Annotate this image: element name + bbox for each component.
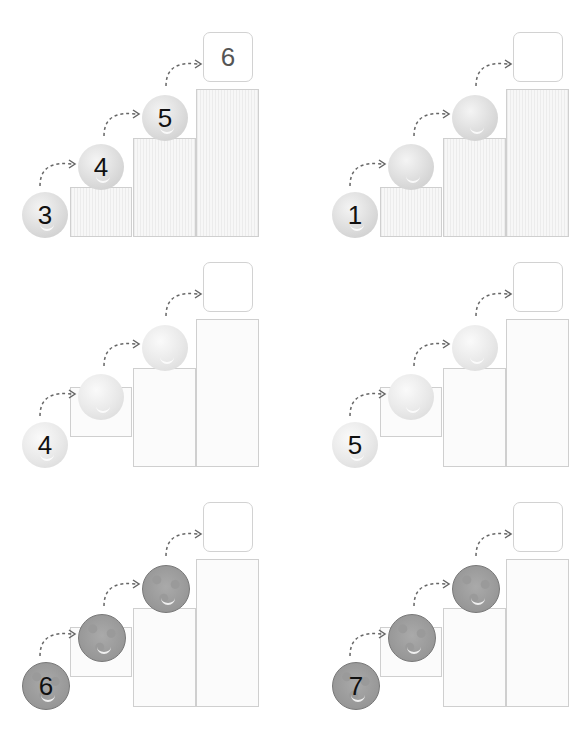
- blank-ball: [388, 614, 436, 662]
- step-1: [380, 187, 442, 237]
- blank-ball: [388, 374, 434, 420]
- shine-highlight: [471, 598, 485, 605]
- answer-box[interactable]: [513, 502, 563, 552]
- blank-ball: [78, 374, 124, 420]
- blank-ball: [452, 325, 498, 371]
- answer-box[interactable]: 6: [203, 32, 253, 82]
- step-3: [196, 319, 259, 467]
- blank-ball: [142, 325, 188, 371]
- shine-highlight: [406, 406, 420, 413]
- blank-ball: [452, 95, 498, 141]
- blank-ball: [142, 565, 190, 613]
- dashed-arrow-icon: [100, 338, 142, 368]
- dashed-arrow-icon: [100, 578, 142, 608]
- step-2: [133, 608, 196, 707]
- dashed-arrow-icon: [472, 288, 514, 318]
- dashed-arrow-icon: [410, 108, 452, 138]
- shine-highlight: [161, 598, 175, 605]
- dashed-arrow-icon: [162, 58, 204, 88]
- dashed-arrow-icon: [36, 388, 78, 418]
- blank-ball: [452, 565, 500, 613]
- dashed-arrow-icon: [162, 528, 204, 558]
- step-2: [133, 368, 196, 467]
- counting-panel-3: 4: [0, 250, 293, 495]
- shine-highlight: [470, 127, 484, 134]
- start-number-ball: 7: [332, 662, 380, 710]
- dashed-arrow-icon: [472, 528, 514, 558]
- start-number-ball: 3: [22, 192, 68, 238]
- shine-highlight: [97, 647, 111, 654]
- counting-panel-2: 1: [294, 0, 586, 245]
- dashed-arrow-icon: [346, 388, 388, 418]
- answer-box[interactable]: [513, 32, 563, 82]
- dashed-arrow-icon: [36, 158, 78, 188]
- dashed-arrow-icon: [346, 158, 388, 188]
- blank-ball: [388, 144, 434, 190]
- step-3: [506, 89, 569, 237]
- dashed-arrow-icon: [472, 58, 514, 88]
- start-number-ball: 4: [22, 422, 68, 468]
- dashed-arrow-icon: [162, 288, 204, 318]
- blank-ball: [78, 614, 126, 662]
- step-2: [443, 608, 506, 707]
- step-3: [506, 319, 569, 467]
- dashed-arrow-icon: [36, 628, 78, 658]
- step-3: [506, 559, 569, 707]
- dashed-arrow-icon: [100, 108, 142, 138]
- counting-panel-5: 6: [0, 490, 293, 734]
- dashed-arrow-icon: [410, 578, 452, 608]
- start-number-ball: 6: [22, 662, 70, 710]
- blank-ball: 4: [78, 144, 124, 190]
- blank-ball: 5: [142, 95, 188, 141]
- shine-highlight: [470, 357, 484, 364]
- shine-highlight: [160, 357, 174, 364]
- shine-highlight: [407, 647, 421, 654]
- step-3: [196, 89, 259, 237]
- step-1: [70, 187, 132, 237]
- counting-panel-6: 7: [294, 490, 586, 734]
- shine-highlight: [406, 176, 420, 183]
- dashed-arrow-icon: [346, 628, 388, 658]
- step-3: [196, 559, 259, 707]
- start-number-ball: 1: [332, 192, 378, 238]
- step-2: [443, 138, 506, 237]
- counting-panel-4: 5: [294, 250, 586, 495]
- counting-panel-1: 3456: [0, 0, 293, 245]
- step-2: [443, 368, 506, 467]
- answer-box[interactable]: [203, 502, 253, 552]
- dashed-arrow-icon: [410, 338, 452, 368]
- answer-box[interactable]: [513, 262, 563, 312]
- shine-highlight: [96, 406, 110, 413]
- answer-box[interactable]: [203, 262, 253, 312]
- step-2: [133, 138, 196, 237]
- start-number-ball: 5: [332, 422, 378, 468]
